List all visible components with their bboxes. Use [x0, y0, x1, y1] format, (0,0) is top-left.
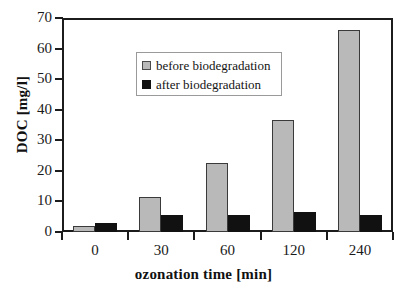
x-axis-tick-label: 120 — [264, 243, 324, 258]
bar-after-0 — [95, 223, 117, 232]
bar-before-120 — [272, 120, 294, 232]
x-axis-tick — [61, 232, 63, 240]
bar-after-30 — [161, 215, 183, 232]
legend-label-before: before biodegradation — [156, 59, 270, 72]
y-axis-tick-label: 30 — [22, 132, 52, 147]
legend-label-after: after biodegradation — [156, 78, 261, 91]
bar-before-0 — [73, 226, 95, 232]
legend-item-before: before biodegradation — [142, 56, 277, 75]
y-axis-tick-label: 0 — [22, 224, 52, 239]
legend-swatch-before-icon — [142, 61, 151, 70]
y-axis-tick-label: 50 — [22, 71, 52, 86]
bar-after-120 — [294, 212, 316, 232]
x-axis-tick — [392, 232, 394, 240]
x-axis-tick — [193, 232, 195, 240]
x-axis-tick — [127, 232, 129, 240]
bar-before-30 — [139, 197, 161, 232]
y-axis-tick-label: 10 — [22, 193, 52, 208]
bar-before-60 — [206, 163, 228, 232]
y-axis-tick-label: 20 — [22, 163, 52, 178]
bar-after-240 — [360, 215, 382, 232]
y-axis-tick-label: 60 — [22, 41, 52, 56]
x-axis-tick-label: 0 — [65, 243, 125, 258]
legend-item-after: after biodegradation — [142, 75, 277, 94]
x-axis-tick-label: 240 — [330, 243, 390, 258]
legend-swatch-after-icon — [142, 80, 151, 89]
x-axis-title: ozonation time [min] — [0, 266, 407, 283]
bar-chart: DOC [mg/l] 010203040506070 before biodeg… — [0, 0, 407, 295]
bar-before-240 — [338, 30, 360, 232]
legend: before biodegradation after biodegradati… — [136, 52, 282, 96]
x-axis-tick-label: 60 — [198, 243, 258, 258]
x-axis-tick — [260, 232, 262, 240]
plot-area: before biodegradation after biodegradati… — [62, 18, 393, 232]
y-axis-tick-label: 70 — [22, 10, 52, 25]
bar-after-60 — [228, 215, 250, 232]
y-axis-tick-label: 40 — [22, 102, 52, 117]
x-axis-tick-label: 30 — [131, 243, 191, 258]
x-axis-tick — [326, 232, 328, 240]
